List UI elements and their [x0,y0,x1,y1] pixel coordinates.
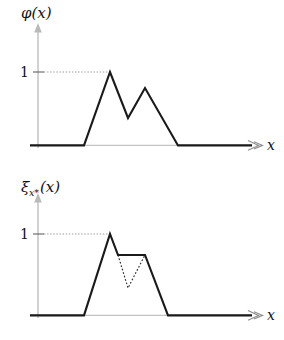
y-axis-label-xi-subscript: x* [29,187,39,198]
x-axis-label-phi: x [267,137,275,153]
y-axis-label-xi-suffix: (x) [40,178,60,196]
chart-panel-phi: φ(x) 1 x [0,0,284,170]
y-axis-label-phi: φ(x) [21,4,52,22]
chart-svg-phi: φ(x) 1 x [0,0,284,170]
curve-phi [30,72,252,145]
y-tick-label-phi: 1 [20,64,29,80]
y-axis-xi [34,193,42,318]
y-axis-label-xi: ξ x* (x) [21,178,60,198]
y-axis-phi [34,23,42,148]
chart-svg-xi: ξ x* (x) 1 x [0,170,284,340]
y-tick-label-xi: 1 [20,226,29,242]
curve-xi [30,234,252,315]
chart-panel-xi: ξ x* (x) 1 x [0,170,284,340]
curve-phi-notch-dotted [118,255,145,288]
x-axis-label-xi: x [267,307,275,323]
